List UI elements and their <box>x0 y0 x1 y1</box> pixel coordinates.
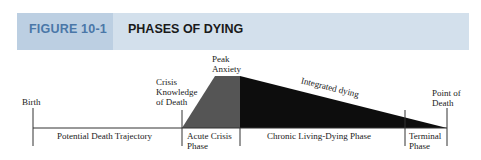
terminal-phase-label-1: Terminal <box>409 131 441 141</box>
crisis-label-3: of Death <box>156 97 187 107</box>
potential-phase-label: Potential Death Trajectory <box>57 131 152 141</box>
peak-label-2: Anxiety <box>212 64 241 74</box>
crisis-label-1: Crisis <box>156 77 177 87</box>
terminal-phase-label-2: Phase <box>409 141 430 151</box>
acute-crisis-shape <box>182 76 240 128</box>
acute-phase-label-2: Phase <box>187 141 208 151</box>
death-label-2: Death <box>432 98 454 108</box>
crisis-label-2: Knowledge <box>156 87 198 97</box>
chronic-phase-shape <box>240 76 447 128</box>
peak-label-1: Peak <box>212 54 230 64</box>
death-label-1: Point of <box>432 88 461 98</box>
birth-label: Birth <box>22 97 41 107</box>
chronic-phase-label: Chronic Living-Dying Phase <box>267 131 371 141</box>
acute-phase-label-1: Acute Crisis <box>187 131 232 141</box>
